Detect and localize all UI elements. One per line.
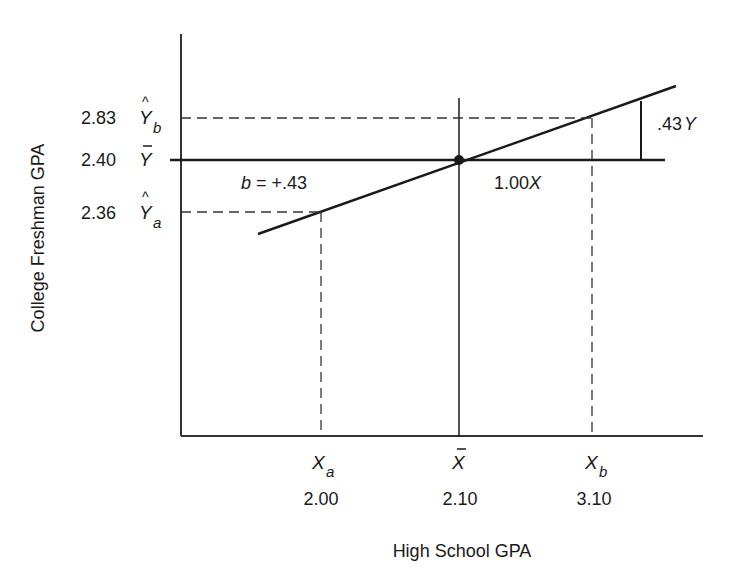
mean-point — [454, 155, 464, 165]
y-hat-a-symbol: Y ^ a — [139, 189, 161, 231]
x-a-symbol: X a — [311, 452, 334, 480]
svg-text:X: X — [451, 452, 466, 473]
svg-text:b: b — [599, 463, 607, 480]
y-tick-yb-value: 2.83 — [81, 108, 116, 128]
x-axis-label: High School GPA — [393, 541, 532, 561]
run-annotation: 1.00X — [494, 173, 542, 193]
svg-text:X: X — [584, 452, 599, 473]
svg-text:X: X — [311, 452, 326, 473]
slope-annotation: b = +.43 — [241, 173, 307, 193]
y-hat-b-symbol: Y ^ b — [139, 94, 161, 136]
y-axis-label: College Freshman GPA — [28, 144, 48, 333]
svg-text:^: ^ — [142, 189, 149, 205]
x-tick-xa-value: 2.00 — [303, 489, 338, 509]
svg-text:a: a — [153, 214, 161, 231]
x-tick-xb-value: 3.10 — [576, 489, 611, 509]
svg-text:Y: Y — [139, 107, 153, 128]
x-b-symbol: X b — [584, 452, 607, 480]
rise-annotation: .43Y — [657, 114, 698, 134]
svg-text:Y: Y — [139, 149, 153, 170]
svg-text:Y: Y — [139, 202, 153, 223]
x-tick-xbar-value: 2.10 — [442, 489, 477, 509]
regression-diagram: College Freshman GPA High School GPA 2.8… — [0, 0, 743, 573]
svg-text:^: ^ — [142, 94, 149, 110]
y-bar-symbol: Y — [139, 146, 153, 170]
svg-text:a: a — [326, 463, 334, 480]
svg-text:b: b — [153, 119, 161, 136]
y-tick-ya-value: 2.36 — [81, 203, 116, 223]
y-tick-ybar-value: 2.40 — [81, 150, 116, 170]
x-bar-symbol: X — [451, 449, 466, 473]
